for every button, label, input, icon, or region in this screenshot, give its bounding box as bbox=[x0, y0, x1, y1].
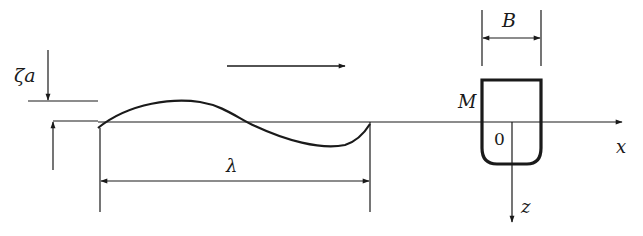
wave-profile bbox=[98, 101, 370, 147]
midship-label: M bbox=[457, 91, 477, 112]
amplitude-dimension: ζa bbox=[14, 50, 98, 170]
amplitude-label: ζa bbox=[14, 64, 36, 86]
z-axis: z bbox=[512, 122, 531, 222]
beam-label: B bbox=[501, 9, 516, 31]
origin-label: 0 bbox=[494, 129, 505, 149]
x-axis: x bbox=[98, 122, 626, 157]
x-axis-label: x bbox=[616, 136, 626, 157]
beam-dimension: B bbox=[482, 9, 541, 66]
wave-ship-diagram: ζa x λ B M 0 z bbox=[0, 0, 643, 236]
z-axis-label: z bbox=[520, 196, 531, 217]
wavelength-label: λ bbox=[225, 155, 237, 176]
wavelength-dimension: λ bbox=[100, 122, 370, 212]
